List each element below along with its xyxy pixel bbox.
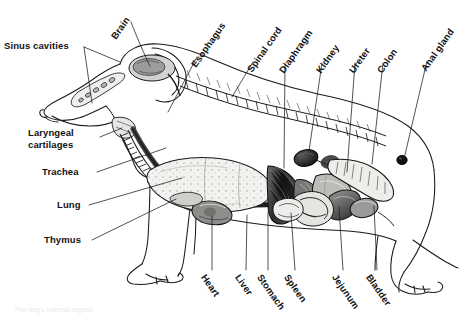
leader-kidney bbox=[309, 63, 322, 151]
leader-sinus-a bbox=[84, 47, 120, 62]
leader-spleen bbox=[291, 213, 295, 270]
leader-anal-gland bbox=[404, 61, 427, 159]
sinus-cavities-organ bbox=[71, 73, 125, 107]
brain-organ bbox=[129, 55, 180, 96]
anatomy-figure-page: Brain Sinus cavities Laryngeal cartilage… bbox=[0, 0, 459, 322]
dorsal-hatching bbox=[187, 70, 370, 132]
label-laryngeal-cartilages-line2: cartilages bbox=[28, 139, 73, 151]
label-laryngeal-cartilages-line1: Laryngeal bbox=[28, 127, 74, 139]
figure-caption-faint: The dog's internal organs bbox=[14, 306, 93, 313]
leader-colon bbox=[372, 63, 383, 164]
leader-thymus bbox=[92, 199, 176, 240]
label-thymus: Thymus bbox=[44, 234, 81, 246]
label-trachea: Trachea bbox=[42, 166, 79, 178]
leader-diaphragm bbox=[284, 63, 285, 168]
leader-ureter bbox=[347, 63, 355, 172]
leader-liver bbox=[246, 215, 247, 270]
label-lung: Lung bbox=[57, 199, 81, 211]
label-sinus-cavities: Sinus cavities bbox=[4, 40, 69, 52]
anal-gland-organ bbox=[397, 155, 407, 164]
spinal-cord-organ bbox=[176, 70, 386, 146]
